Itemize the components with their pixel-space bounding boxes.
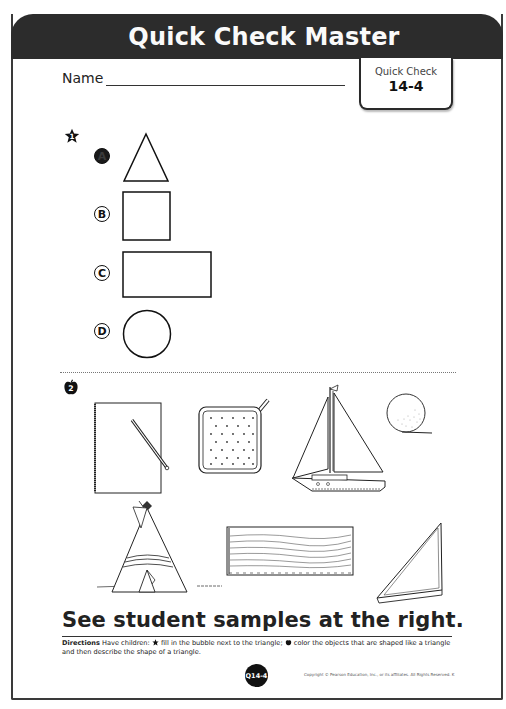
name-label: Name	[62, 70, 103, 86]
samples-note: See student samples at the right.	[62, 608, 464, 632]
apple-icon: 2	[63, 379, 79, 396]
directions-part-2: fill in the bubble next to the triangle;	[159, 639, 285, 647]
notebook-pencil-image[interactable]	[90, 400, 175, 496]
copyright-text: Copyright © Pearson Education, Inc., or …	[304, 672, 454, 677]
triangle-shape	[121, 131, 171, 183]
bubble-d[interactable]: D	[94, 323, 110, 339]
bubble-c[interactable]: C	[94, 265, 110, 281]
star-icon: 1	[64, 128, 80, 144]
quick-check-label: Quick Check	[361, 66, 451, 77]
sailboat-image[interactable]	[290, 383, 390, 495]
item1-number: 1	[69, 132, 74, 141]
page-number-badge: Q14-4	[245, 664, 268, 687]
directions-part-1: Have children:	[100, 639, 152, 647]
quick-check-number: 14-4	[361, 78, 451, 94]
quick-check-tab: Quick Check 14-4	[359, 58, 453, 110]
teepee-image[interactable]	[97, 500, 227, 596]
star-icon	[152, 639, 159, 646]
square-shape	[121, 190, 173, 242]
name-field-row: Name	[62, 70, 345, 86]
rectangle-shape	[121, 250, 214, 299]
bubble-a[interactable]: A	[94, 148, 110, 164]
section-divider	[60, 372, 456, 373]
header-bar: Quick Check Master	[11, 14, 503, 59]
item2-number: 2	[68, 384, 73, 393]
triangle-ruler-image[interactable]	[374, 520, 446, 606]
circle-shape	[121, 308, 173, 360]
potholder-image[interactable]	[196, 398, 276, 478]
wood-plank-image[interactable]	[225, 524, 357, 580]
directions-label: Directions	[62, 639, 100, 647]
apple-icon	[285, 639, 292, 646]
bubble-b[interactable]: B	[94, 206, 110, 222]
ball-image[interactable]	[384, 392, 434, 440]
name-input-line[interactable]	[106, 72, 345, 86]
page-title: Quick Check Master	[114, 23, 399, 51]
directions-text: Directions Have children: fill in the bu…	[62, 639, 454, 657]
footer-rule	[62, 636, 452, 637]
